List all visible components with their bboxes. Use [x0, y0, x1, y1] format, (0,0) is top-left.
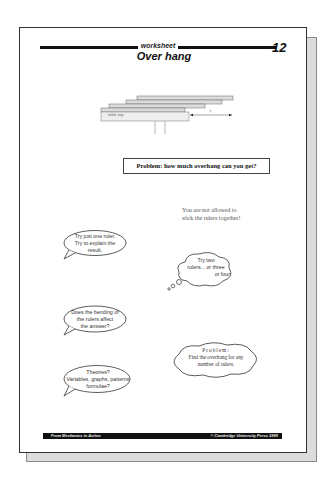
rule-note: You are not allowed to stick the rulers …: [182, 206, 282, 222]
note-line-1: You are not allowed to: [182, 206, 282, 214]
overhang-dimension-label: ?: [209, 109, 211, 114]
bubble-bending-text: Does the bending of the rulers affect th…: [65, 309, 125, 330]
bubble-problem-text: Problem: Find the overhang for any numbe…: [178, 347, 254, 368]
bubble-theories-text: Theories? Variables, graphs, patterns fo…: [65, 369, 131, 390]
worksheet-page: worksheet 12 Over hang table top ? Probl…: [19, 27, 307, 453]
footer-bar: From Mechanics in Action © Cambridge Uni…: [43, 433, 282, 439]
footer-source: From Mechanics in Action: [51, 433, 101, 439]
table-top-label: table top: [108, 112, 124, 117]
problem-box: Problem: how much overhang can you get?: [123, 158, 270, 174]
footer-copyright: © Cambridge University Press 1990: [211, 433, 278, 439]
bubble-more-rulers-text: Try two rulers... or three or four: [182, 257, 230, 278]
note-line-2: stick the rulers together!: [182, 214, 282, 222]
bubble-one-ruler-text: Try just one ruler. Try to explain the r…: [65, 233, 125, 254]
ruler-stack-diagram: [20, 28, 308, 138]
